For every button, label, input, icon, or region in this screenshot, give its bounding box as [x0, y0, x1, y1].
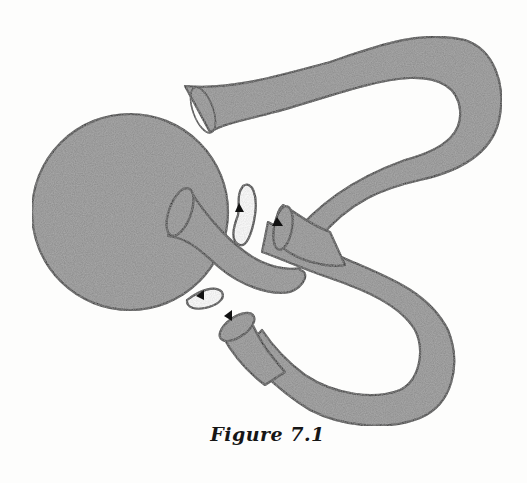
upper-hole	[233, 185, 255, 246]
lower-loop-tube	[248, 222, 454, 426]
figure-caption-text: Figure 7.1	[210, 423, 325, 445]
figure-caption: Figure 7.1	[0, 423, 527, 445]
topology-figure	[0, 0, 527, 483]
lower-hole	[187, 289, 223, 309]
upper-handle-tube	[185, 37, 501, 256]
arrow-bottom-funnel	[224, 310, 232, 321]
